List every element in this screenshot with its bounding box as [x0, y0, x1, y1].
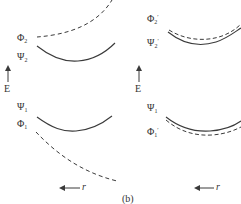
right-panel-curves	[166, 24, 241, 135]
phi-2-curve	[37, 0, 112, 37]
phi-1-label: Φ1	[17, 119, 27, 132]
left-energy-axis-label: E	[4, 84, 10, 94]
right-r-axis-label: r	[216, 182, 220, 192]
psi-2-curve	[37, 43, 115, 61]
left-r-axis-label: r	[82, 182, 86, 192]
phi-2-label: Φ2	[17, 33, 27, 46]
diagram-canvas	[0, 0, 241, 204]
phi-1-prime-curve	[166, 120, 241, 135]
right-energy-axis-label: E	[135, 84, 141, 94]
psi-2-prime-curve	[168, 28, 241, 44]
psi-1-right-label: Ψ1	[147, 103, 157, 116]
phi-2-prime-label: Φ2′	[147, 12, 159, 27]
psi-2-label: Ψ2	[17, 52, 27, 65]
phi-1-prime-label: Φ1′	[147, 125, 159, 140]
phi-2-prime-curve	[169, 24, 241, 39]
figure-caption: (b)	[122, 194, 134, 204]
psi-2-prime-label: Ψ2′	[147, 36, 159, 51]
psi-1-right-curve	[166, 117, 241, 131]
left-panel-curves	[36, 0, 117, 181]
phi-1-curve	[36, 132, 117, 181]
psi-1-label: Ψ1	[17, 102, 27, 115]
psi-1-curve	[37, 116, 112, 131]
